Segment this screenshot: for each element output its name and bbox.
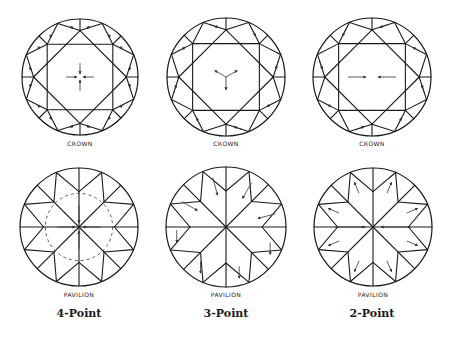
pavilion-diagram-2-point xyxy=(314,168,432,286)
pavilion-diagram-3-point xyxy=(166,167,286,287)
column-2-point xyxy=(313,18,432,286)
crown-label-3-point: CROWN xyxy=(213,140,239,147)
title-3-point: 3-Point xyxy=(204,307,249,320)
crown-diagram-4-point xyxy=(22,19,138,135)
polishing-direction-diagram xyxy=(0,0,449,337)
title-4-point: 4-Point xyxy=(57,307,102,320)
column-4-point xyxy=(20,19,138,286)
pavilion-label-2-point: PAVILION xyxy=(358,291,388,298)
pavilion-label-4-point: PAVILION xyxy=(64,291,94,298)
column-3-point xyxy=(166,18,286,287)
crown-label-2-point: CROWN xyxy=(359,140,385,147)
crown-label-4-point: CROWN xyxy=(67,140,93,147)
title-2-point: 2-Point xyxy=(350,307,395,320)
pavilion-label-3-point: PAVILION xyxy=(211,291,241,298)
crown-diagram-2-point xyxy=(313,18,431,136)
pavilion-diagram-4-point xyxy=(20,168,138,286)
crown-diagram-3-point xyxy=(167,18,285,136)
